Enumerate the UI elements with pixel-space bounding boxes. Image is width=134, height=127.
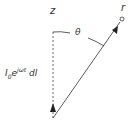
theta-label: θ xyxy=(75,27,81,37)
dipole-diagram xyxy=(0,0,134,127)
field-point xyxy=(120,17,124,21)
theta-arc xyxy=(53,32,70,33)
theta-arc-right xyxy=(88,38,104,46)
z-label: z xyxy=(50,5,55,16)
r-vector xyxy=(53,22,120,118)
current-element-label: I0ejωt dl xyxy=(5,66,37,80)
dipole-arrowhead xyxy=(50,103,56,112)
r-label: r xyxy=(121,2,125,13)
